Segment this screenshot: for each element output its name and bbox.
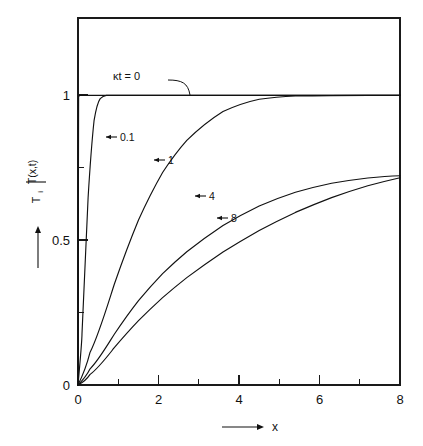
y-axis-arrow xyxy=(35,226,41,268)
kt-label-leader xyxy=(168,80,190,95)
x-axis-major-ticks xyxy=(78,375,400,385)
x-tick-label-2: 2 xyxy=(155,392,162,407)
x-tick-label-4: 4 xyxy=(235,392,242,407)
y-axis-label-numerator: T(x,t) xyxy=(26,160,38,185)
x-tick-label-0: 0 xyxy=(74,392,81,407)
curve-kt-8 xyxy=(78,178,400,385)
curve-label-8: 8 xyxy=(231,212,237,224)
curve-label-1: 1 xyxy=(168,154,174,166)
y-tick-label-0-5: 0.5 xyxy=(52,233,70,248)
x-tick-label-8: 8 xyxy=(396,392,403,407)
y-tick-label-1: 1 xyxy=(63,88,70,103)
x-axis-label: x xyxy=(272,420,278,434)
plot-svg: 0 0.5 1 0 2 4 6 8 x T(x,t) T i κt = 0 0.… xyxy=(0,0,423,446)
curve-label-leaders xyxy=(106,135,228,221)
x-tick-label-6: 6 xyxy=(316,392,323,407)
curve-kt-4 xyxy=(78,176,400,385)
y-axis-label-denominator-subscript: i xyxy=(36,191,45,193)
figure-container: 0 0.5 1 0 2 4 6 8 x T(x,t) T i κt = 0 0.… xyxy=(0,0,423,446)
y-axis-label-denominator: T xyxy=(30,196,42,203)
curve-label-0-1: 0.1 xyxy=(120,131,135,143)
y-tick-label-0: 0 xyxy=(63,378,70,393)
x-axis-arrow xyxy=(222,424,264,430)
curve-label-4: 4 xyxy=(209,190,215,202)
annotation-kt-zero: κt = 0 xyxy=(113,70,140,82)
